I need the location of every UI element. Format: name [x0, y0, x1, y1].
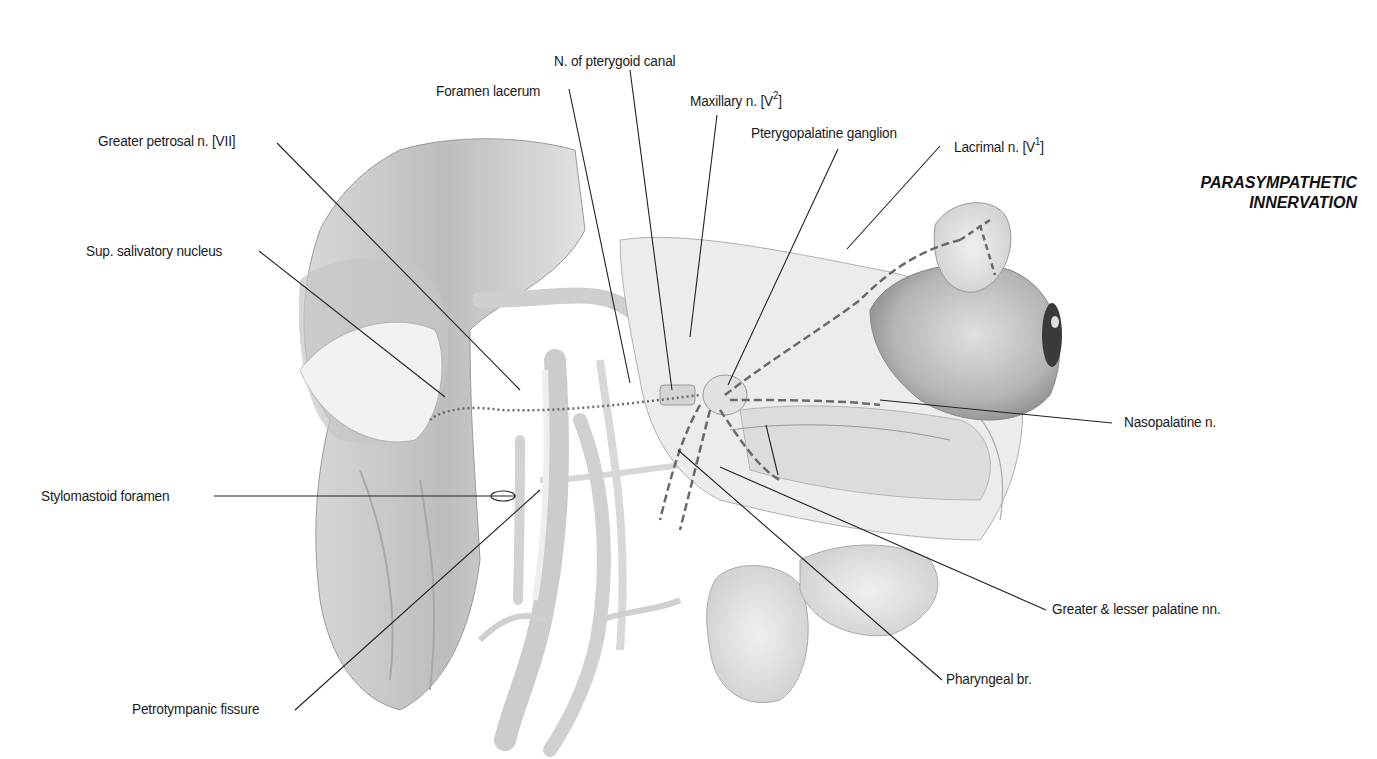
label-nasopalatine-n: Nasopalatine n. [1124, 413, 1216, 431]
label-maxillary-n: Maxillary n. [V2] [690, 90, 782, 110]
label-lacrimal-n-text: Lacrimal n. [V [954, 138, 1035, 155]
salivary-glands [707, 545, 938, 703]
diagram-title-line1: PARASYMPATHETIC [1201, 173, 1357, 193]
anatomy-diagram: N. of pterygoid canal Foramen lacerum Ma… [0, 0, 1377, 759]
label-greater-petrosal-n: Greater petrosal n. [VII] [98, 132, 235, 150]
label-lacrimal-n-sup: 1 [1035, 135, 1040, 147]
label-maxillary-n-text: Maxillary n. [V [690, 92, 773, 109]
label-maxillary-n-close: ] [778, 92, 782, 109]
label-lacrimal-n-close: ] [1040, 138, 1044, 155]
diagram-title: PARASYMPATHETIC INNERVATION [1201, 173, 1357, 213]
label-stylomastoid-foramen: Stylomastoid foramen [41, 487, 169, 505]
label-lacrimal-n: Lacrimal n. [V1] [954, 136, 1044, 156]
label-pharyngeal-br: Pharyngeal br. [946, 670, 1031, 688]
diagram-title-line2: INNERVATION [1201, 193, 1357, 213]
label-foramen-lacerum: Foramen lacerum [436, 82, 540, 100]
label-pterygopalatine-ganglion: Pterygopalatine ganglion [751, 124, 897, 142]
label-greater-lesser-palatine-nn: Greater & lesser palatine nn. [1052, 600, 1221, 618]
label-petrotympanic-fissure: Petrotympanic fissure [132, 700, 259, 718]
label-n-of-pterygoid-canal: N. of pterygoid canal [554, 52, 675, 70]
label-sup-salivatory-nucleus: Sup. salivatory nucleus [86, 242, 222, 260]
anatomy-illustration [0, 0, 1377, 759]
label-maxillary-n-sup: 2 [773, 89, 778, 101]
